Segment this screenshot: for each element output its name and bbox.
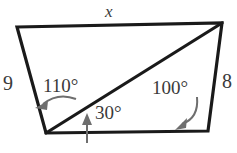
geometry-figure: x 9 8 110° 30° 100°: [0, 0, 237, 153]
side-label-top-x: x: [105, 3, 113, 20]
figure-canvas: [0, 0, 237, 153]
side-label-left-9: 9: [3, 73, 13, 93]
side-label-right-8: 8: [222, 71, 232, 91]
angle-label-110: 110°: [43, 76, 78, 95]
angle-label-30: 30°: [95, 103, 122, 122]
angle-label-100: 100°: [152, 78, 188, 97]
